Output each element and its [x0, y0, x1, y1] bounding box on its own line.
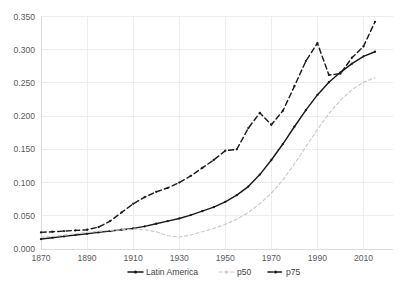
data-point — [213, 159, 215, 161]
chart-container: 0.0000.0500.1000.1500.2000.2500.3000.350… — [0, 0, 415, 291]
data-point — [236, 194, 238, 196]
y-tick-label: 0.150 — [13, 144, 35, 154]
legend-label: p50 — [237, 267, 252, 277]
data-point — [178, 181, 180, 183]
legend-marker — [274, 270, 277, 273]
data-point — [316, 94, 318, 96]
y-tick-label: 0.100 — [13, 178, 35, 188]
data-point — [167, 220, 169, 222]
data-point — [236, 148, 238, 150]
chart-legend: Latin Americap50p75 — [128, 267, 301, 277]
data-point — [293, 126, 295, 128]
legend-item[interactable]: Latin America — [128, 267, 198, 277]
data-point — [51, 231, 53, 233]
x-tick-label: 1990 — [308, 253, 327, 263]
series-layer — [40, 21, 376, 241]
y-axis-tick-labels: 0.0000.0500.1000.1500.2000.2500.3000.350 — [13, 12, 35, 255]
data-point — [247, 127, 249, 129]
data-point — [247, 185, 249, 187]
data-point — [270, 124, 272, 126]
legend-marker — [134, 270, 137, 273]
data-point — [259, 173, 261, 175]
data-point — [40, 231, 42, 233]
series-line-latin-america — [41, 52, 375, 239]
data-point — [339, 72, 341, 74]
data-point — [282, 110, 284, 112]
data-point — [144, 225, 146, 227]
data-point — [374, 21, 376, 23]
x-axis-tick-labels: 18701890191019301950197019902010 — [31, 253, 373, 263]
y-tick-label: 0.200 — [13, 111, 35, 121]
data-point — [40, 238, 42, 240]
data-point — [224, 201, 226, 203]
data-point — [178, 217, 180, 219]
legend-item[interactable]: p75 — [268, 267, 301, 277]
data-point — [190, 214, 192, 216]
y-tick-label: 0.250 — [13, 78, 35, 88]
data-point — [282, 143, 284, 145]
data-point — [201, 167, 203, 169]
data-point — [362, 45, 364, 47]
data-point — [316, 42, 318, 44]
gridlines — [41, 16, 393, 250]
series-line-p75 — [41, 22, 375, 233]
data-point — [144, 196, 146, 198]
data-point — [305, 109, 307, 111]
data-point — [259, 112, 261, 114]
legend-label: p75 — [286, 267, 301, 277]
line-chart: 0.0000.0500.1000.1500.2000.2500.3000.350… — [0, 0, 415, 291]
x-tick-label: 1870 — [31, 253, 50, 263]
y-tick-label: 0.050 — [13, 211, 35, 221]
y-tick-label: 0.350 — [13, 12, 35, 22]
data-point — [132, 203, 134, 205]
data-point — [97, 226, 99, 228]
data-point — [362, 55, 364, 57]
x-tick-label: 1890 — [78, 253, 97, 263]
data-point — [374, 51, 376, 53]
data-point — [190, 175, 192, 177]
x-tick-label: 1930 — [170, 253, 189, 263]
data-point — [109, 220, 111, 222]
data-point — [270, 159, 272, 161]
legend-label: Latin America — [146, 267, 198, 277]
data-point — [86, 229, 88, 231]
data-point — [155, 223, 157, 225]
x-tick-label: 1970 — [262, 253, 281, 263]
data-point — [120, 211, 122, 213]
data-point — [224, 150, 226, 152]
y-tick-label: 0.300 — [13, 45, 35, 55]
data-point — [351, 63, 353, 65]
legend-marker — [225, 270, 228, 273]
data-point — [351, 57, 353, 59]
data-point — [328, 81, 330, 83]
data-point — [213, 206, 215, 208]
legend-item[interactable]: p50 — [219, 267, 252, 277]
data-point — [74, 229, 76, 231]
data-point — [155, 191, 157, 193]
data-point — [305, 60, 307, 62]
data-point — [167, 187, 169, 189]
data-point — [201, 210, 203, 212]
axes — [41, 16, 393, 250]
series-line-p50 — [41, 78, 375, 237]
data-point — [293, 85, 295, 87]
x-tick-label: 2010 — [354, 253, 373, 263]
x-tick-label: 1910 — [124, 253, 143, 263]
data-point — [328, 74, 330, 76]
x-tick-label: 1950 — [216, 253, 235, 263]
data-point — [63, 230, 65, 232]
